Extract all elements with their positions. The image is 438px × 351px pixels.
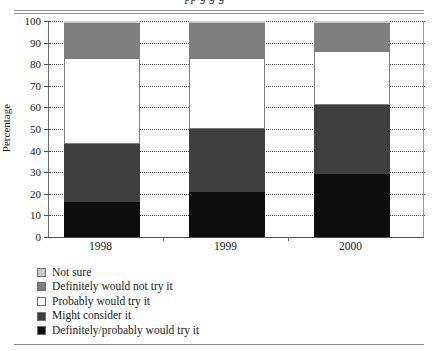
bar-segment[interactable] xyxy=(314,21,390,23)
stacked-bar[interactable] xyxy=(64,21,140,237)
legend-swatch-icon xyxy=(37,326,46,335)
legend-item-label: Definitely would not try it xyxy=(52,281,173,293)
legend-item[interactable]: Might consider it xyxy=(37,309,199,324)
header-rule-bottom xyxy=(14,13,424,14)
y-axis-tick-label: 10 xyxy=(30,209,41,221)
bar-segment[interactable] xyxy=(189,21,265,23)
bar-segment[interactable] xyxy=(189,58,265,129)
y-axis-tick xyxy=(44,172,49,173)
legend-item-label: Probably would try it xyxy=(52,296,150,308)
legend-swatch-icon xyxy=(37,312,46,321)
header-rule-top xyxy=(14,10,424,11)
y-axis-tick xyxy=(44,151,49,152)
x-axis-line xyxy=(48,237,424,238)
x-axis-minor-tick xyxy=(163,237,164,241)
bar-segment[interactable] xyxy=(64,202,140,237)
legend-item-label: Might consider it xyxy=(52,310,131,322)
y-axis-tick xyxy=(44,43,49,44)
bar-segment[interactable] xyxy=(64,58,140,144)
footer-rule xyxy=(14,344,424,345)
x-axis-minor-tick xyxy=(288,237,289,241)
legend-item-label: Not sure xyxy=(52,267,91,279)
legend-item[interactable]: Definitely would not try it xyxy=(37,280,199,295)
y-axis-tick-label: 80 xyxy=(30,58,41,70)
bar-segment[interactable] xyxy=(189,23,265,58)
bar-segment[interactable] xyxy=(64,23,140,58)
y-axis-tick-label: 30 xyxy=(30,166,41,178)
y-axis-tick xyxy=(44,21,49,22)
y-axis-tick-label: 0 xyxy=(36,231,42,243)
x-axis-tick-label: 2000 xyxy=(311,240,391,252)
legend-swatch-icon xyxy=(37,297,46,306)
legend-item-label: Definitely/probably would try it xyxy=(52,325,199,337)
y-axis-tick-label: 20 xyxy=(30,188,41,200)
y-axis-tick xyxy=(44,194,49,195)
chart-plot-area: 0102030405060708090100 xyxy=(48,21,424,237)
chart-legend: Not sureDefinitely would not try itProba… xyxy=(37,265,199,338)
bar-segment[interactable] xyxy=(189,192,265,237)
y-axis-title: Percentage xyxy=(0,104,12,152)
bar-segment[interactable] xyxy=(314,23,390,51)
bar-segment[interactable] xyxy=(314,105,390,174)
x-axis-tick-label: 1998 xyxy=(61,240,141,252)
y-axis-tick xyxy=(44,64,49,65)
legend-item[interactable]: Probably would try it xyxy=(37,294,199,309)
y-axis-tick-label: 70 xyxy=(30,80,41,92)
legend-swatch-icon xyxy=(37,282,46,291)
y-axis-tick-label: 40 xyxy=(30,145,41,157)
bar-segment[interactable] xyxy=(314,174,390,237)
y-axis-tick-label: 90 xyxy=(30,37,41,49)
stacked-bar[interactable] xyxy=(189,21,265,237)
bar-segment[interactable] xyxy=(314,51,390,105)
bar-segment[interactable] xyxy=(189,129,265,192)
bar-segment[interactable] xyxy=(64,21,140,23)
y-axis-tick-label: 60 xyxy=(30,101,41,113)
y-axis-tick-label: 50 xyxy=(30,123,41,135)
y-axis-tick xyxy=(44,86,49,87)
y-axis-tick xyxy=(44,129,49,130)
legend-item[interactable]: Not sure xyxy=(37,265,199,280)
y-axis-tick-label: 100 xyxy=(25,15,42,27)
clipped-header-title: pp g g g xyxy=(185,0,225,3)
y-axis-tick xyxy=(44,215,49,216)
bar-segment[interactable] xyxy=(64,144,140,202)
stacked-bar[interactable] xyxy=(314,21,390,237)
y-axis-tick xyxy=(44,107,49,108)
clipped-header: pp g g g xyxy=(0,0,438,14)
legend-item[interactable]: Definitely/probably would try it xyxy=(37,323,199,338)
legend-swatch-icon xyxy=(37,268,46,277)
x-axis-tick-label: 1999 xyxy=(186,240,266,252)
